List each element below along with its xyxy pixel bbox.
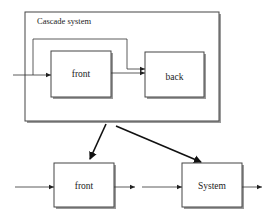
- arrow-to-front: [90, 124, 106, 159]
- outer-front-block: front: [54, 163, 116, 209]
- inner-front-block: front: [51, 51, 113, 99]
- container-title: Cascade system: [37, 16, 91, 26]
- outer-front-label: front: [75, 181, 94, 191]
- arrow-to-system: [116, 126, 201, 162]
- inner-back-label: back: [166, 72, 184, 82]
- inner-front-label: front: [72, 69, 91, 79]
- inner-back-block: back: [145, 52, 206, 99]
- decomposition-arrows: [90, 124, 201, 162]
- outer-system-label: System: [198, 181, 227, 191]
- outer-system-block: System: [182, 163, 244, 209]
- cascade-diagram: Cascade system front back front System: [0, 0, 277, 224]
